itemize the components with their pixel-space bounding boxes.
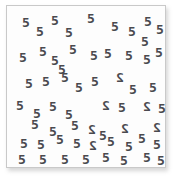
distractor-glyph-5: 5 xyxy=(51,14,59,27)
distractor-glyph-5: 5 xyxy=(39,45,47,58)
distractor-glyph-5: 5 xyxy=(128,25,136,38)
distractor-glyph-5: 5 xyxy=(156,23,164,36)
distractor-glyph-5: 5 xyxy=(91,75,99,88)
distractor-glyph-5: 5 xyxy=(144,15,152,28)
distractor-glyph-5: 5 xyxy=(36,25,44,38)
distractor-glyph-5: 5 xyxy=(61,153,69,166)
distractor-glyph-5: 5 xyxy=(118,101,126,114)
distractor-glyph-5: 5 xyxy=(75,81,83,94)
distractor-glyph-5: 5 xyxy=(143,151,151,164)
distractor-glyph-5: 5 xyxy=(22,16,30,29)
distractor-glyph-5: 5 xyxy=(90,49,98,62)
target-glyph-2: 2 xyxy=(89,139,97,152)
target-glyph-2: 2 xyxy=(88,123,96,136)
distractor-glyph-5: 5 xyxy=(71,119,79,132)
distractor-glyph-5: 5 xyxy=(153,138,161,151)
distractor-glyph-5: 5 xyxy=(69,43,77,56)
distractor-glyph-5: 5 xyxy=(42,75,50,88)
distractor-glyph-5: 5 xyxy=(158,102,166,115)
target-glyph-2: 2 xyxy=(121,122,129,135)
distractor-glyph-5: 5 xyxy=(25,77,33,90)
distractor-glyph-5: 5 xyxy=(120,154,128,167)
distractor-glyph-5: 5 xyxy=(102,151,110,164)
distractor-glyph-5: 5 xyxy=(138,132,146,145)
target-glyph-2: 2 xyxy=(116,71,124,84)
distractor-glyph-5: 5 xyxy=(99,129,107,142)
distractor-glyph-5: 5 xyxy=(87,12,95,25)
distractor-glyph-5: 5 xyxy=(155,46,163,59)
distractor-glyph-5: 5 xyxy=(157,154,165,167)
distractor-glyph-5: 5 xyxy=(20,137,28,150)
search-array-card: 5555555555555555555555555255555525255552… xyxy=(6,5,166,168)
distractor-glyph-5: 5 xyxy=(143,53,151,66)
distractor-glyph-5: 5 xyxy=(16,99,24,112)
distractor-glyph-5: 5 xyxy=(49,100,57,113)
distractor-glyph-5: 5 xyxy=(18,153,26,166)
distractor-glyph-5: 5 xyxy=(65,26,73,39)
distractor-glyph-5: 5 xyxy=(107,135,115,148)
visual-search-stimulus: 5555555555555555555555555255555525255552… xyxy=(0,0,177,180)
distractor-glyph-5: 5 xyxy=(111,20,119,33)
distractor-glyph-5: 5 xyxy=(129,83,137,96)
distractor-glyph-5: 5 xyxy=(125,140,133,153)
distractor-glyph-5: 5 xyxy=(19,51,27,64)
distractor-glyph-5: 5 xyxy=(56,133,64,146)
distractor-glyph-5: 5 xyxy=(149,81,157,94)
distractor-glyph-5: 5 xyxy=(61,71,69,84)
target-glyph-2: 2 xyxy=(102,99,110,112)
distractor-glyph-5: 5 xyxy=(82,153,90,166)
distractor-glyph-5: 5 xyxy=(73,137,81,150)
distractor-glyph-5: 5 xyxy=(31,118,39,131)
target-glyph-2: 2 xyxy=(143,100,151,113)
distractor-glyph-5: 5 xyxy=(141,35,149,48)
distractor-glyph-5: 5 xyxy=(125,49,133,62)
distractor-glyph-5: 5 xyxy=(37,138,45,151)
distractor-glyph-5: 5 xyxy=(39,153,47,166)
distractor-glyph-5: 5 xyxy=(104,47,112,60)
target-glyph-2: 2 xyxy=(153,121,161,134)
glyph-layer: 5555555555555555555555555255555525255552… xyxy=(7,6,165,167)
